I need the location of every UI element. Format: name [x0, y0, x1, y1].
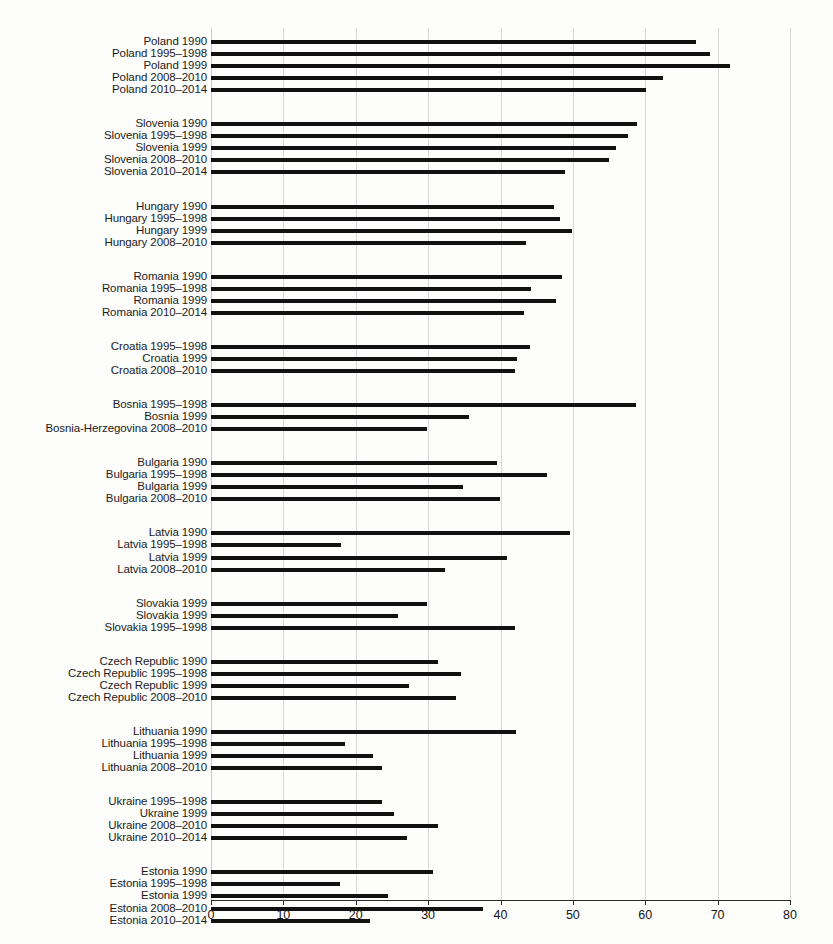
bar-category-label: Slovakia 1995–1998: [105, 622, 207, 634]
bar-category-label: Czech Republic 1990: [100, 656, 207, 668]
x-tick-0: [211, 900, 212, 905]
bar-category-label: Ukraine 1995–1998: [108, 796, 207, 808]
bar: [211, 287, 531, 291]
bar: [211, 696, 456, 700]
bar-category-label: Slovakia 1999: [136, 610, 207, 622]
bar-category-label: Bulgaria 1990: [137, 457, 207, 469]
bar-category-label: Ukraine 1999: [140, 808, 207, 820]
bar-category-label: Bosnia 1995–1998: [113, 399, 207, 411]
x-tick-label-10: 10: [276, 908, 290, 922]
bar: [211, 626, 515, 630]
bar: [211, 52, 710, 56]
bar-series: [211, 28, 790, 900]
category-label-column: Poland 1990Poland 1995–1998Poland 1999Po…: [0, 28, 211, 900]
bar-category-label: Lithuania 1990: [133, 726, 207, 738]
bar-category-label: Slovenia 2010–2014: [104, 167, 207, 179]
bar: [211, 730, 516, 734]
bar: [211, 660, 438, 664]
bar: [211, 672, 461, 676]
bar: [211, 812, 394, 816]
bar-category-label: Romania 1995–1998: [102, 283, 207, 295]
x-tick-50: [573, 900, 574, 905]
plot-area: [211, 28, 790, 900]
bar: [211, 64, 730, 68]
x-tick-label-80: 80: [783, 908, 797, 922]
bar: [211, 742, 345, 746]
bar: [211, 485, 463, 489]
bar: [211, 543, 341, 547]
bar-category-label: Ukraine 2008–2010: [108, 821, 207, 833]
bar-category-label: Croatia 2008–2010: [111, 365, 207, 377]
bar: [211, 602, 427, 606]
bar-category-label: Poland 1995–1998: [112, 48, 207, 60]
x-tick-20: [356, 900, 357, 905]
bar: [211, 497, 500, 501]
bar: [211, 882, 340, 886]
bar-category-label: Slovenia 2008–2010: [104, 155, 207, 167]
bar: [211, 158, 609, 162]
bar-category-label: Hungary 1999: [136, 225, 207, 237]
bar: [211, 217, 560, 221]
bar: [211, 345, 530, 349]
x-tick-80: [790, 900, 791, 905]
bar: [211, 568, 445, 572]
bar-category-label: Romania 2010–2014: [102, 307, 207, 319]
bar: [211, 40, 696, 44]
bar: [211, 531, 570, 535]
x-axis: 01020304050607080: [211, 900, 790, 940]
bar-category-label: Romania 1990: [133, 271, 207, 283]
bar-category-label: Poland 1990: [144, 36, 208, 48]
x-tick-40: [501, 900, 502, 905]
bar-category-label: Latvia 1995–1998: [117, 540, 207, 552]
bar: [211, 556, 507, 560]
bar: [211, 473, 547, 477]
bar-category-label: Lithuania 1999: [133, 750, 207, 762]
bar-category-label: Hungary 2008–2010: [104, 237, 207, 249]
bar: [211, 415, 469, 419]
bar-category-label: Estonia 1999: [141, 891, 207, 903]
bar-category-label: Poland 1999: [144, 60, 208, 72]
x-tick-label-50: 50: [566, 908, 580, 922]
bar: [211, 403, 636, 407]
bar-category-label: Poland 2008–2010: [112, 72, 207, 84]
x-tick-label-70: 70: [711, 908, 725, 922]
bar-category-label: Ukraine 2010–2014: [108, 833, 207, 845]
bar: [211, 146, 616, 150]
bar-category-label: Czech Republic 1995–1998: [68, 668, 207, 680]
bar-category-label: Czech Republic 2008–2010: [68, 692, 207, 704]
x-tick-label-20: 20: [349, 908, 363, 922]
bar-category-label: Bulgaria 2008–2010: [106, 494, 207, 506]
bar: [211, 299, 556, 303]
bar: [211, 614, 398, 618]
bar-category-label: Bulgaria 1995–1998: [106, 470, 207, 482]
bar-category-label: Poland 2010–2014: [112, 84, 207, 96]
bar: [211, 122, 637, 126]
bar: [211, 824, 438, 828]
bar: [211, 766, 382, 770]
bar-category-label: Lithuania 1995–1998: [101, 738, 207, 750]
x-tick-10: [283, 900, 284, 905]
bar: [211, 311, 524, 315]
bar-category-label: Lithuania 2008–2010: [101, 762, 207, 774]
bar-category-label: Estonia 1990: [141, 867, 207, 879]
bar: [211, 76, 663, 80]
bar-category-label: Czech Republic 1999: [100, 680, 207, 692]
bar-category-label: Croatia 1999: [142, 353, 207, 365]
x-tick-70: [718, 900, 719, 905]
bar: [211, 684, 409, 688]
bar: [211, 800, 382, 804]
bar-category-label: Bosnia-Herzegovina 2008–2010: [45, 423, 207, 435]
bar-category-label: Romania 1999: [133, 295, 207, 307]
bar: [211, 894, 388, 898]
bar-category-label: Slovenia 1995–1998: [104, 131, 207, 143]
x-tick-label-30: 30: [421, 908, 435, 922]
bar-category-label: Estonia 1995–1998: [110, 879, 207, 891]
bar-category-label: Bosnia 1999: [144, 411, 207, 423]
bar-category-label: Estonia 2008–2010: [110, 903, 207, 915]
bar: [211, 241, 526, 245]
bar: [211, 275, 562, 279]
bar-category-label: Latvia 1999: [149, 552, 207, 564]
bar: [211, 461, 497, 465]
x-tick-60: [645, 900, 646, 905]
bar-category-label: Slovenia 1999: [135, 143, 207, 155]
